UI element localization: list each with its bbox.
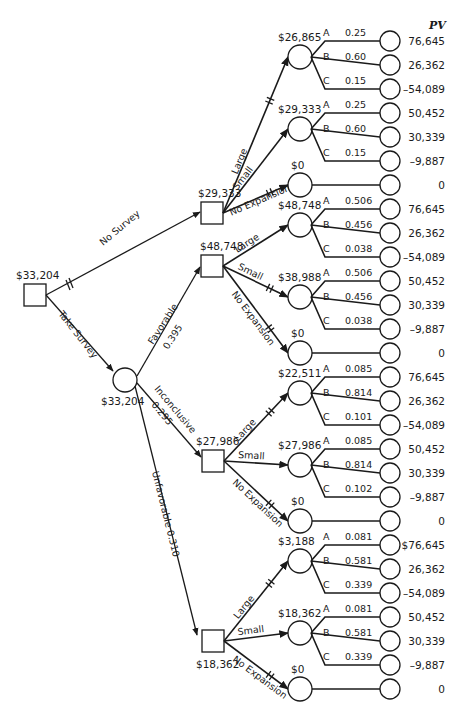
outcome-letter: C: [323, 579, 330, 590]
present-value: 0: [438, 515, 445, 527]
expected-value: $18,362: [278, 607, 321, 619]
outcome-letter: C: [323, 315, 330, 326]
terminal-node: [380, 415, 400, 435]
present-value: 26,362: [408, 395, 445, 407]
decision-block-inconclusive: $27,986Large$22,511A0.08576,645B0.81426,…: [196, 363, 445, 533]
outcome-letter: A: [323, 363, 330, 374]
outcome-letter: C: [323, 147, 330, 158]
terminal-node: [380, 559, 400, 579]
survey-results: Favorable 0.395 Inconclusive 0.295 Unfav…: [135, 267, 201, 635]
present-value: 50,452: [408, 107, 445, 119]
expected-value: $22,511: [278, 367, 321, 379]
chance-node-no-expansion: [288, 677, 312, 701]
present-value: 76,645: [408, 35, 445, 47]
terminal-node: [380, 127, 400, 147]
terminal-node: [380, 343, 400, 363]
chance-node-large: [288, 381, 312, 405]
terminal-node: [380, 607, 400, 627]
outcome-letter: B: [323, 51, 330, 62]
terminal-node: [380, 535, 400, 555]
present-value: –9,887: [410, 659, 445, 671]
no-survey-label: No Survey: [97, 207, 142, 247]
outcome-probability: 0.038: [345, 315, 372, 326]
terminal-node: [380, 31, 400, 51]
outcome-probability: 0.15: [345, 147, 366, 158]
decision-node-favorable: [201, 255, 223, 277]
present-value: 30,339: [408, 467, 445, 479]
expected-value: $27,986: [278, 439, 322, 451]
outcome-letter: B: [323, 219, 330, 230]
terminal-node: [380, 679, 400, 699]
outcome-letter: C: [323, 75, 330, 86]
present-value: 0: [438, 683, 445, 695]
unfavorable-label: Unfavorable 0.310: [150, 470, 182, 558]
outcome-probability: 0.581: [345, 627, 372, 638]
chance-node-no-expansion: [288, 173, 312, 197]
root-decision-node: $33,204: [16, 269, 60, 306]
outcome-probability: 0.506: [345, 267, 372, 278]
outcome-probability: 0.085: [345, 435, 372, 446]
pv-header: PV: [428, 19, 447, 32]
terminal-node: [380, 55, 400, 75]
root-value: $33,204: [16, 269, 60, 281]
expected-value: $0: [291, 159, 304, 171]
outcome-probability: 0.814: [345, 387, 372, 398]
terminal-node: [380, 655, 400, 675]
present-value: –9,887: [410, 155, 445, 167]
present-value: –54,089: [403, 251, 445, 263]
outcome-letter: A: [323, 99, 330, 110]
outcome-probability: 0.456: [345, 219, 372, 230]
branch-label-small: Small: [238, 449, 265, 462]
present-value: $76,645: [402, 539, 445, 551]
present-value: 50,452: [408, 611, 445, 623]
decision-tree: PV $33,204 No Survey Take Survey $33,204…: [0, 0, 456, 708]
terminal-node: [380, 319, 400, 339]
pruned-mark-icon: [66, 278, 73, 290]
chance-node-small: [288, 285, 312, 309]
present-value: 50,452: [408, 275, 445, 287]
decision-block-unfavorable: $18,362Large$3,188A0.081$76,645B0.58126,…: [196, 531, 445, 701]
outcome-probability: 0.15: [345, 75, 366, 86]
terminal-node: [380, 151, 400, 171]
terminal-node: [380, 79, 400, 99]
chance-node-small: [288, 117, 312, 141]
terminal-node: [380, 391, 400, 411]
outcome-letter: A: [323, 27, 330, 38]
outcome-probability: 0.081: [345, 531, 372, 542]
present-value: 26,362: [408, 59, 445, 71]
present-value: 30,339: [408, 299, 445, 311]
outcome-probability: 0.081: [345, 603, 372, 614]
expected-value: $48,748: [278, 199, 321, 211]
outcome-probability: 0.25: [345, 99, 366, 110]
present-value: –9,887: [410, 323, 445, 335]
present-value: 0: [438, 179, 445, 191]
chance-node-large: [288, 549, 312, 573]
outcome-letter: B: [323, 627, 330, 638]
chance-node-small: [288, 621, 312, 645]
terminal-node: [380, 463, 400, 483]
outcome-probability: 0.60: [345, 123, 366, 134]
outcome-probability: 0.102: [345, 483, 372, 494]
terminal-node: [380, 367, 400, 387]
outcome-probability: 0.101: [345, 411, 372, 422]
terminal-node: [380, 583, 400, 603]
present-value: 26,362: [408, 563, 445, 575]
chance-node-no-expansion: [288, 509, 312, 533]
branch-take-survey: Take Survey: [46, 295, 113, 371]
outcome-probability: 0.814: [345, 459, 372, 470]
present-value: 30,339: [408, 635, 445, 647]
expected-value: $38,988: [278, 271, 321, 283]
outcome-letter: A: [323, 603, 330, 614]
terminal-node: [380, 247, 400, 267]
chance-node-no-expansion: [288, 341, 312, 365]
decision-node-no-survey: [201, 202, 223, 224]
outcome-letter: A: [323, 435, 330, 446]
present-value: 26,362: [408, 227, 445, 239]
expected-value: $0: [291, 663, 304, 675]
outcome-letter: B: [323, 123, 330, 134]
branch-label-no-expansion: No Expansion: [231, 477, 286, 529]
terminal-node: [380, 487, 400, 507]
take-survey-label: Take Survey: [56, 308, 101, 361]
outcome-letter: C: [323, 411, 330, 422]
decision-node-inconclusive: [202, 450, 224, 472]
